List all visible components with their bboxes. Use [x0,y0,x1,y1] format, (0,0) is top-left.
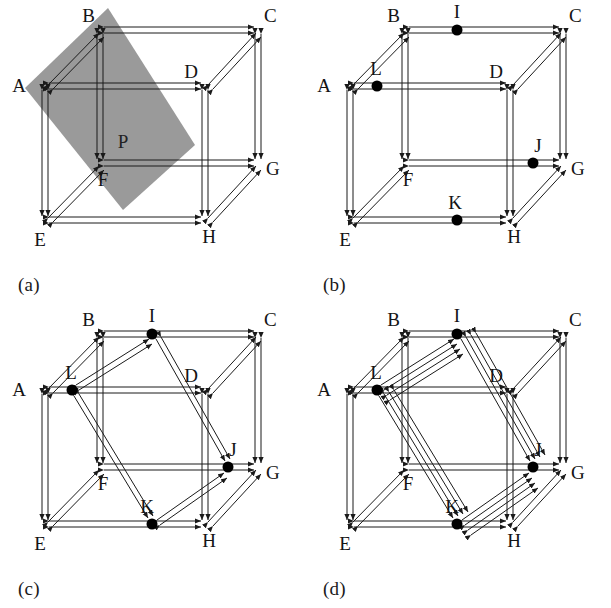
edge-dh [202,394,208,520]
panel-c: A B C D E F G H I J K L (c) [0,304,305,608]
midpoint-label-i: I [454,305,460,326]
edge-cg [560,338,566,463]
midpoint-node-l [67,385,78,396]
vertex-label-f: F [403,169,414,190]
diagonal-ij [461,333,545,461]
vertex-label-b: B [82,5,95,26]
midpoint-label-k: K [445,496,459,517]
vertex-label-a: A [12,379,26,400]
midpoint-node-l [372,81,383,92]
edge-ef [353,166,409,222]
vertex-label-e: E [34,533,46,554]
edge-dc [513,33,566,89]
midpoint-label-k: K [140,496,154,517]
midpoint-label-i: I [454,1,460,22]
midpoint-label-j: J [534,135,541,156]
edge-ef [48,470,104,526]
vertex-label-d: D [184,61,198,82]
vertex-label-c: C [264,309,277,330]
edge-bc [104,331,254,337]
vertex-label-b: B [82,309,95,330]
vertex-label-f: F [403,473,414,494]
edge-bc [409,331,559,337]
edge-dc [513,337,566,393]
midpoint-node-l [372,385,383,396]
edge-bf [402,34,408,159]
diagonal-jk [157,473,227,525]
panel-caption-c: (c) [18,578,40,600]
vertex-label-c: C [569,309,582,330]
panel-b: A B C D E F G H I J K L (b) [305,0,611,304]
vertex-label-a: A [317,75,331,96]
midpoint-label-j: J [229,439,236,460]
edge-dc [208,33,261,89]
vertex-label-e: E [339,533,351,554]
edge-eh [354,217,506,223]
vertex-label-h: H [507,530,521,551]
panel-caption-a: (a) [18,274,40,296]
panel-d-diagram: A B C D E F G H I J K L [305,304,611,608]
edge-eh [49,521,201,527]
diagonal-il [76,339,152,390]
midpoint-node-i [452,329,463,340]
vertex-label-e: E [34,229,46,250]
edge-hg [208,166,261,222]
vertex-label-g: G [571,158,585,179]
panel-caption-d: (d) [323,578,346,600]
edge-bc [409,27,559,33]
plane-label-p: P [118,131,129,152]
midpoint-node-i [452,25,463,36]
edge-ef [353,470,409,526]
vertex-label-g: G [266,462,280,483]
edge-cg [560,34,566,159]
vertex-label-h: H [507,226,521,247]
midpoint-label-i: I [149,305,155,326]
vertex-label-c: C [569,5,582,26]
edge-bc [104,27,254,33]
vertex-label-d: D [184,365,198,386]
midpoint-node-k [452,215,463,226]
vertex-label-g: G [266,158,280,179]
panel-b-diagram: A B C D E F G H I J K L [305,0,611,304]
panel-c-diagram: A B C D E F G H I J K L [0,304,305,608]
plane-p [25,8,195,210]
edge-cg [255,338,261,463]
vertex-label-f: F [98,473,109,494]
vertex-label-b: B [387,5,400,26]
midpoint-node-j [528,462,539,473]
vertex-label-c: C [264,5,277,26]
midpoint-label-k: K [448,192,462,213]
edge-hg [513,166,566,222]
vertex-label-d: D [489,61,503,82]
panel-a: A B C D E F G H P (a) [0,0,305,304]
midpoint-label-l: L [370,58,382,79]
midpoint-label-l: L [65,362,77,383]
edge-eh [49,217,201,223]
vertex-label-e: E [339,229,351,250]
edge-ae [347,394,353,520]
midpoint-node-k [452,519,463,530]
vertex-label-g: G [571,462,585,483]
edge-dh [507,90,513,216]
midpoint-node-k [147,519,158,530]
edge-bf [97,338,103,463]
diagonal-jk [462,473,538,535]
vertex-label-h: H [202,530,216,551]
vertex-label-d: D [489,365,503,386]
midpoint-node-j [528,158,539,169]
edge-ae [42,394,48,520]
panel-caption-b: (b) [323,274,346,296]
edge-dc [208,337,261,393]
vertex-label-a: A [317,379,331,400]
edge-cg [255,34,261,159]
midpoint-label-j: J [534,439,541,460]
edge-ae [347,90,353,216]
diagonal-ij [156,337,230,461]
vertex-label-a: A [12,75,26,96]
panel-a-diagram: A B C D E F G H P [0,0,305,304]
midpoint-node-i [147,329,158,340]
vertex-label-b: B [387,309,400,330]
midpoint-node-j [223,462,234,473]
edge-dh [202,90,208,216]
vertex-label-h: H [202,226,216,247]
